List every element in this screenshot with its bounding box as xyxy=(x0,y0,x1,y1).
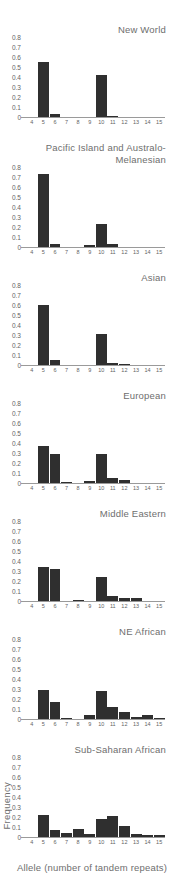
x-axis: 456789101112131415 xyxy=(26,118,165,127)
x-tick-label: 11 xyxy=(107,602,119,611)
y-tick-label: 0.6 xyxy=(12,537,21,546)
x-tick-label: 4 xyxy=(26,366,38,375)
bar-allele-10 xyxy=(96,454,107,483)
y-tick-label: 0.2 xyxy=(12,459,21,468)
x-tick-label: 4 xyxy=(26,248,38,257)
x-tick-label: 15 xyxy=(153,366,165,375)
bar-allele-11 xyxy=(107,116,118,117)
x-tick-label: 11 xyxy=(107,484,119,493)
bar-allele-6 xyxy=(50,830,61,837)
x-tick-label: 5 xyxy=(38,118,50,127)
x-tick-label: 9 xyxy=(84,720,96,729)
plot-row: 00.10.20.30.40.50.60.70.8 xyxy=(0,167,170,248)
y-axis: 00.10.20.30.40.50.60.70.8 xyxy=(0,37,26,117)
bar-allele-11 xyxy=(107,816,118,837)
x-tick-label: 8 xyxy=(72,720,84,729)
bar-allele-6 xyxy=(50,244,61,247)
chart-panels: New World00.10.20.30.40.50.60.70.8456789… xyxy=(0,24,170,847)
x-tick-label: 9 xyxy=(84,366,96,375)
chart-panel: NE African00.10.20.30.40.50.60.70.845678… xyxy=(0,626,170,729)
x-tick-label: 13 xyxy=(130,838,142,847)
bar-allele-6 xyxy=(50,702,61,719)
plot-row: 00.10.20.30.40.50.60.70.8 xyxy=(0,285,170,366)
x-tick-label: 8 xyxy=(72,118,84,127)
bar-allele-13 xyxy=(131,834,142,837)
bar-allele-5 xyxy=(38,446,49,483)
x-tick-label: 12 xyxy=(119,838,131,847)
x-tick-label: 13 xyxy=(130,484,142,493)
panel-title: Pacific Island and Australo-Melanesian xyxy=(0,142,170,166)
x-tick-label: 4 xyxy=(26,720,38,729)
x-tick-label: 7 xyxy=(61,248,73,257)
panel-title: NE African xyxy=(0,626,170,638)
y-tick-label: 0.3 xyxy=(12,685,21,694)
x-axis: 456789101112131415 xyxy=(26,602,165,611)
x-tick-label: 12 xyxy=(119,602,131,611)
x-tick-label: 10 xyxy=(95,602,107,611)
y-tick-label: 0.8 xyxy=(12,753,21,762)
plot-area xyxy=(26,403,165,484)
chart-panel: Middle Eastern00.10.20.30.40.50.60.70.84… xyxy=(0,508,170,611)
panel-title: New World xyxy=(0,24,170,36)
x-tick-label: 5 xyxy=(38,248,50,257)
chart-panel: Sub-Saharan African00.10.20.30.40.50.60.… xyxy=(0,744,170,847)
x-tick-label: 13 xyxy=(130,248,142,257)
bar-allele-14 xyxy=(142,835,153,837)
x-tick-label: 15 xyxy=(153,602,165,611)
x-tick-label: 4 xyxy=(26,838,38,847)
x-tick-label: 5 xyxy=(38,602,50,611)
y-tick-label: 0.7 xyxy=(12,173,21,182)
x-tick-label: 14 xyxy=(142,248,154,257)
x-tick-label: 12 xyxy=(119,366,131,375)
allele-frequency-figure: New World00.10.20.30.40.50.60.70.8456789… xyxy=(0,0,170,874)
x-tick-label: 4 xyxy=(26,118,38,127)
x-tick-label: 4 xyxy=(26,602,38,611)
plot-area xyxy=(26,521,165,602)
x-tick-label: 14 xyxy=(142,366,154,375)
x-tick-label: 6 xyxy=(49,484,61,493)
bar-allele-12 xyxy=(119,712,130,719)
y-tick-label: 0.7 xyxy=(12,763,21,772)
y-axis: 00.10.20.30.40.50.60.70.8 xyxy=(0,639,26,719)
plot-area xyxy=(26,37,165,118)
x-tick-label: 14 xyxy=(142,720,154,729)
y-tick-label: 0.4 xyxy=(12,557,21,566)
x-tick-label: 7 xyxy=(61,366,73,375)
x-tick-label: 8 xyxy=(72,484,84,493)
bar-allele-13 xyxy=(131,717,142,719)
x-tick-label: 13 xyxy=(130,366,142,375)
x-tick-label: 15 xyxy=(153,838,165,847)
y-tick-label: 0.2 xyxy=(12,577,21,586)
y-tick-label: 0.4 xyxy=(12,203,21,212)
plot-row: 00.10.20.30.40.50.60.70.8 xyxy=(0,639,170,720)
bar-allele-5 xyxy=(38,62,49,117)
y-tick-label: 0.4 xyxy=(12,321,21,330)
bar-allele-9 xyxy=(84,834,95,837)
x-tick-label: 7 xyxy=(61,602,73,611)
bar-allele-10 xyxy=(96,75,107,117)
y-axis: 00.10.20.30.40.50.60.70.8 xyxy=(0,521,26,601)
x-tick-label: 8 xyxy=(72,366,84,375)
y-tick-label: 0.3 xyxy=(12,83,21,92)
plot-row: 00.10.20.30.40.50.60.70.8 xyxy=(0,521,170,602)
bar-allele-6 xyxy=(50,454,61,483)
y-tick-label: 0.3 xyxy=(12,213,21,222)
x-tick-label: 7 xyxy=(61,720,73,729)
chart-panel: New World00.10.20.30.40.50.60.70.8456789… xyxy=(0,24,170,127)
x-tick-label: 11 xyxy=(107,366,119,375)
figure-page: { "figure": { "ylabel": "Frequency", "xl… xyxy=(0,0,170,876)
x-tick-label: 10 xyxy=(95,118,107,127)
y-tick-label: 0.1 xyxy=(12,103,21,112)
x-tick-label: 5 xyxy=(38,838,50,847)
bar-allele-10 xyxy=(96,691,107,719)
y-tick-label: 0.6 xyxy=(12,419,21,428)
bar-allele-10 xyxy=(96,819,107,837)
x-tick-label: 14 xyxy=(142,838,154,847)
bar-allele-7 xyxy=(61,482,72,483)
x-tick-label: 6 xyxy=(49,720,61,729)
x-tick-label: 10 xyxy=(95,366,107,375)
y-axis: 00.10.20.30.40.50.60.70.8 xyxy=(0,403,26,483)
bar-allele-11 xyxy=(107,478,118,483)
x-tick-label: 5 xyxy=(38,720,50,729)
y-tick-label: 0.6 xyxy=(12,183,21,192)
